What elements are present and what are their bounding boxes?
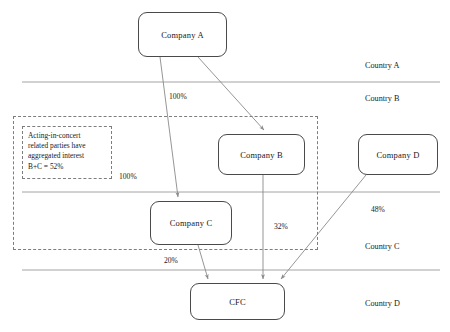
node-company-d[interactable]: Company D (358, 134, 438, 175)
country-label-b: Country B (365, 94, 399, 103)
edge-label-c-to-cfc: 20% (163, 256, 179, 265)
node-company-b[interactable]: Company B (218, 134, 305, 175)
node-cfc[interactable]: CFC (190, 283, 285, 320)
node-company-a[interactable]: Company A (138, 12, 227, 57)
edge-label-a-to-b: 100% (168, 92, 188, 101)
country-label-d: Country D (365, 299, 400, 308)
note-line-4: B+C = 52% (28, 162, 106, 172)
edge-label-d-to-cfc: 48% (370, 205, 386, 214)
edge-label-b-to-cfc: 32% (273, 222, 289, 231)
note-line-2: related parties have (28, 141, 106, 151)
country-label-c: Country C (365, 242, 399, 251)
edge-label-a-to-c: 100% (118, 172, 138, 181)
acting-in-concert-note: Acting-in-concert related parties have a… (22, 126, 112, 179)
node-company-c[interactable]: Company C (150, 201, 232, 245)
note-line-1: Acting-in-concert (28, 131, 106, 141)
connector-c-to-cfc (198, 245, 208, 279)
diagram-canvas: Acting-in-concert related parties have a… (0, 0, 450, 332)
country-label-a: Country A (365, 61, 399, 70)
note-line-3: aggregated interest (28, 151, 106, 161)
